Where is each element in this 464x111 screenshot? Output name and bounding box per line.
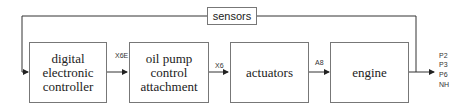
output-p3: P3 [439,61,448,68]
controller-block: digital electronic controller [29,42,107,103]
actuators-label: actuators [246,66,293,80]
actuators-block: actuators [230,42,309,103]
output-nh: NH [439,81,449,88]
controller-line-3: controller [42,80,93,94]
pump-line-1: oil pump [140,52,197,66]
pump-line-3: attachment [140,80,197,94]
engine-label: engine [352,66,387,80]
edge-label-x6e: X6E [115,52,128,59]
pump-line-2: control [140,66,197,80]
sensors-label: sensors [213,9,252,23]
edge-label-x6: X6 [215,62,224,69]
controller-line-2: electronic [42,66,93,80]
engine-block: engine [330,42,409,103]
edge-label-a8: A8 [315,59,324,66]
output-p2: P2 [439,52,448,59]
sensors-block: sensors [207,7,257,25]
controller-line-1: digital [42,52,93,66]
output-p6: P6 [439,71,448,78]
oil-pump-block: oil pump control attachment [129,42,209,103]
